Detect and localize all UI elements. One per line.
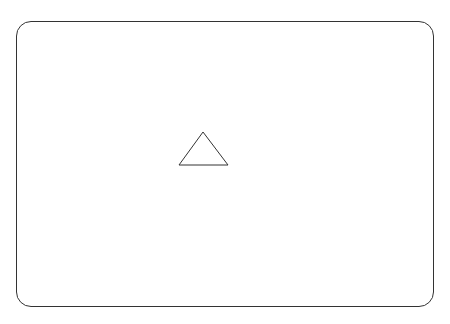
diagram-canvas <box>0 0 450 324</box>
triangle-icon <box>179 132 228 165</box>
